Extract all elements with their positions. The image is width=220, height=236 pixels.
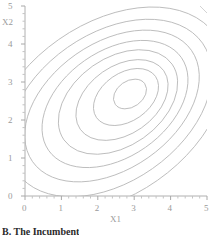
contour-plot-figure: 5 4 3 2 1 0 X2 0 1 2 3 4 5 X1 B. The Inc…	[0, 0, 220, 236]
y-tick-label-0: 0	[8, 192, 13, 201]
y-tick-label-3: 3	[8, 78, 13, 87]
x-axis-major-ticks	[25, 196, 207, 200]
contour-ring-2	[83, 57, 170, 138]
x-tick-label-4: 4	[168, 204, 173, 213]
contour-ring-8	[0, 0, 220, 236]
x-tick-label-1: 1	[58, 204, 63, 213]
x-tick-label-5: 5	[204, 204, 209, 213]
x-axis-label: X1	[110, 215, 121, 224]
x-tick-label-2: 2	[95, 204, 100, 213]
y-tick-label-4: 4	[8, 40, 13, 49]
y-tick-label-2: 2	[8, 116, 13, 125]
y-axis-label: X2	[2, 18, 13, 27]
y-tick-label-5: 5	[8, 2, 13, 11]
contour-ring-4	[39, 28, 198, 176]
x-tick-label-0: 0	[22, 204, 27, 213]
figure-caption: B. The Incumbent	[2, 226, 79, 236]
contour-ring-6	[0, 0, 220, 213]
contour-ring-3	[61, 43, 184, 157]
contour-plot-canvas	[0, 0, 220, 236]
corner-mark-icon	[200, 6, 207, 13]
contour-ring-1	[108, 73, 152, 115]
contour-lines	[0, 0, 220, 236]
y-tick-label-1: 1	[8, 154, 13, 163]
y-axis-major-ticks	[21, 6, 25, 196]
x-tick-label-3: 3	[131, 204, 136, 213]
